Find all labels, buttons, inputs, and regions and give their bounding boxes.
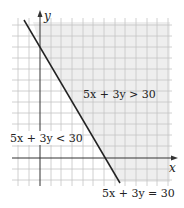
- label-equal: 5x + 3y = 30: [102, 187, 175, 200]
- x-axis-arrow-icon: [171, 156, 178, 161]
- x-axis-label: x: [169, 161, 176, 175]
- label-less: 5x + 3y < 30: [10, 132, 83, 145]
- y-axis-label: y: [43, 9, 51, 23]
- label-greater: 5x + 3y > 30: [83, 88, 156, 101]
- inequality-graph: y x 5x + 3y > 30 5x + 3y < 30 5x + 3y = …: [0, 0, 184, 208]
- y-axis-arrow-icon: [38, 10, 43, 17]
